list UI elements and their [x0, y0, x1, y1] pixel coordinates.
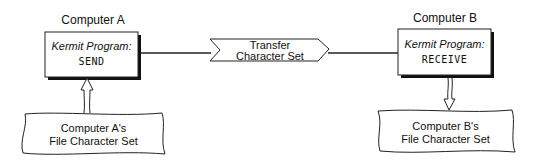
up-arrow-icon [81, 78, 93, 113]
computer-a-file-charset-line1: Computer A's [22, 122, 165, 135]
computer-a-program-command: SEND [45, 55, 138, 68]
computer-b-program-label: Kermit Program: [398, 38, 491, 51]
down-arrow-icon [444, 78, 455, 110]
computer-a-title: Computer A [58, 14, 128, 27]
transfer-line2: Character Set [215, 50, 325, 63]
computer-b-file-charset-line1: Computer B's [376, 120, 515, 133]
computer-a-program-label: Kermit Program: [45, 40, 138, 53]
computer-b-program-command: RECEIVE [398, 53, 491, 66]
computer-b-title: Computer B [410, 12, 480, 25]
computer-b-file-charset-line2: File Character Set [376, 133, 515, 146]
computer-a-file-charset-line2: File Character Set [22, 135, 165, 148]
